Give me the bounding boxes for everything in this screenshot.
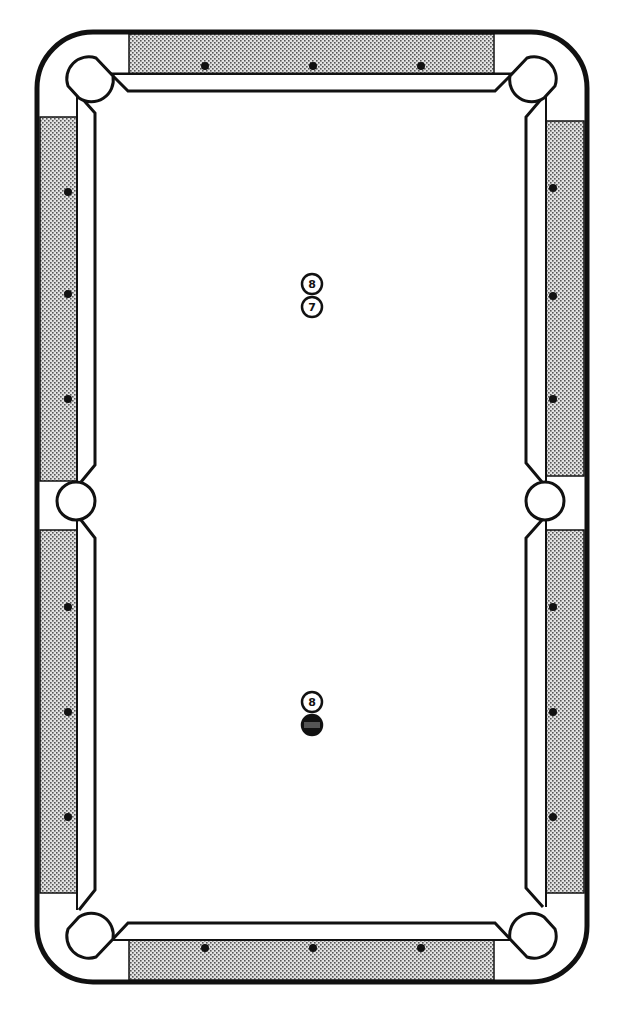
diamond-marker-right [549, 292, 557, 300]
ball [302, 715, 322, 735]
pocket-middle-left [57, 482, 95, 520]
ball: 7 [302, 297, 322, 317]
ball-number: 8 [308, 278, 316, 291]
ball: 8 [302, 692, 322, 712]
diamond-marker-left [64, 813, 72, 821]
diamond-marker-left [64, 395, 72, 403]
diamond-marker-top [309, 62, 317, 70]
rail-left-upper [40, 117, 77, 481]
diamond-marker-bottom [417, 944, 425, 952]
ball-number: 8 [308, 696, 316, 709]
diamond-marker-top [417, 62, 425, 70]
diamond-marker-bottom [309, 944, 317, 952]
table-frame [37, 32, 587, 982]
ball: 8 [302, 274, 322, 294]
diamond-marker-right [549, 603, 557, 611]
pocket-middle-right [526, 482, 564, 520]
diamond-marker-top [201, 62, 209, 70]
diamond-marker-right [549, 395, 557, 403]
cushion-top [112, 75, 511, 91]
pool-table-diagram: 878 [0, 0, 621, 1015]
pool-table: 878 [0, 0, 621, 1015]
diamond-marker-left [64, 708, 72, 716]
ball-number: 7 [308, 301, 316, 314]
diamond-marker-right [549, 184, 557, 192]
diamond-marker-left [64, 188, 72, 196]
diamond-marker-left [64, 290, 72, 298]
diamond-marker-bottom [201, 944, 209, 952]
cushion-bottom [112, 923, 511, 940]
diamond-marker-right [549, 813, 557, 821]
diamond-marker-right [549, 708, 557, 716]
diamond-marker-left [64, 603, 72, 611]
